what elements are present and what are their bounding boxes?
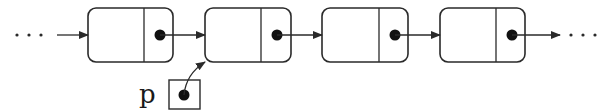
linked-list-diagram: p [0, 0, 614, 110]
trailing-ellipsis [569, 33, 596, 36]
pointer-arrow [184, 62, 205, 95]
pointer-label: p [139, 79, 156, 109]
leading-ellipsis [15, 33, 42, 36]
diagram-svg: p [0, 0, 614, 110]
